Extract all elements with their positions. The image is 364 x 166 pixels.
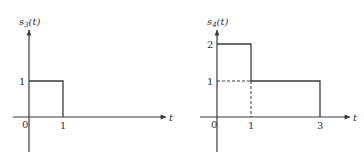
s3-x-label: t bbox=[169, 112, 174, 123]
s4-y-label: s4(t) bbox=[207, 16, 229, 29]
s3-xtick-1: 1 bbox=[60, 120, 66, 131]
plot-s4: s4(t) 2 1 0 1 3 t bbox=[200, 16, 358, 152]
s4-origin-label: 0 bbox=[211, 119, 217, 130]
s4-x-label: t bbox=[353, 112, 358, 123]
s3-y-label: s3(t) bbox=[19, 16, 41, 29]
s3-origin-label: 0 bbox=[22, 119, 28, 130]
s3-pulse bbox=[29, 81, 63, 117]
s4-xtick-3: 3 bbox=[317, 120, 323, 131]
plot-s3: s3(t) 1 0 1 t bbox=[13, 16, 174, 152]
s4-ytick-2: 2 bbox=[207, 39, 213, 50]
s3-ytick-1: 1 bbox=[19, 76, 25, 87]
s4-xtick-1: 1 bbox=[248, 120, 254, 131]
figure-canvas: s3(t) 1 0 1 t s4(t) 2 1 0 1 3 t bbox=[0, 0, 364, 166]
s4-ytick-1: 1 bbox=[207, 76, 213, 87]
